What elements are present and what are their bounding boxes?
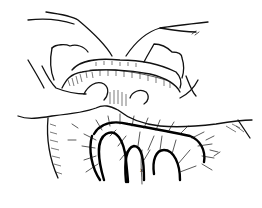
intestinal-arches: x [68,114,220,184]
small-mark-label: x [140,166,144,173]
illustration: x [0,0,262,208]
bowel-loop [62,59,181,106]
mesentery [18,106,252,178]
left-hand [28,12,112,94]
right-hand [126,22,208,98]
surgical-illustration: x [0,0,262,208]
